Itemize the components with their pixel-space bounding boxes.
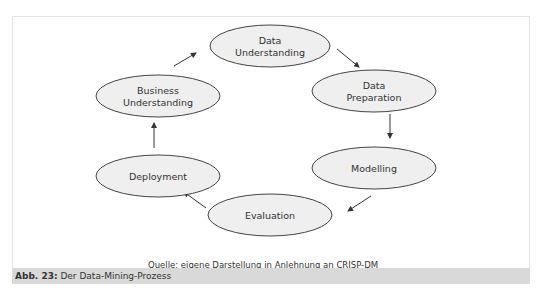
node-label: Preparation xyxy=(347,92,402,103)
node-label: Data xyxy=(259,35,282,46)
figure-caption: Abb. 23: Der Data-Mining-Prozess xyxy=(12,268,530,284)
figure-frame: DataUnderstandingDataPreparationModellin… xyxy=(12,16,530,284)
crisp-dm-diagram: DataUnderstandingDataPreparationModellin… xyxy=(13,17,531,285)
node-data-understanding: DataUnderstanding xyxy=(210,25,330,67)
node-data-preparation: DataPreparation xyxy=(312,70,436,112)
arrow-modelling-to-evaluation xyxy=(348,196,371,211)
caption-label: Abb. 23: xyxy=(15,271,58,281)
node-label: Deployment xyxy=(129,171,187,182)
node-label: Evaluation xyxy=(245,210,295,221)
node-label: Understanding xyxy=(123,97,193,108)
node-label: Business xyxy=(137,85,179,96)
node-label: Understanding xyxy=(235,47,305,58)
node-label: Modelling xyxy=(351,163,397,174)
arrow-data-understanding-to-data-preparation xyxy=(337,49,359,67)
node-deployment: Deployment xyxy=(96,155,220,197)
node-evaluation: Evaluation xyxy=(208,194,332,236)
node-business-understanding: BusinessUnderstanding xyxy=(96,75,220,117)
node-label: Data xyxy=(363,80,386,91)
caption-text: Der Data-Mining-Prozess xyxy=(58,271,172,281)
arrow-business-understanding-to-data-understanding xyxy=(174,53,196,66)
node-modelling: Modelling xyxy=(312,147,436,189)
